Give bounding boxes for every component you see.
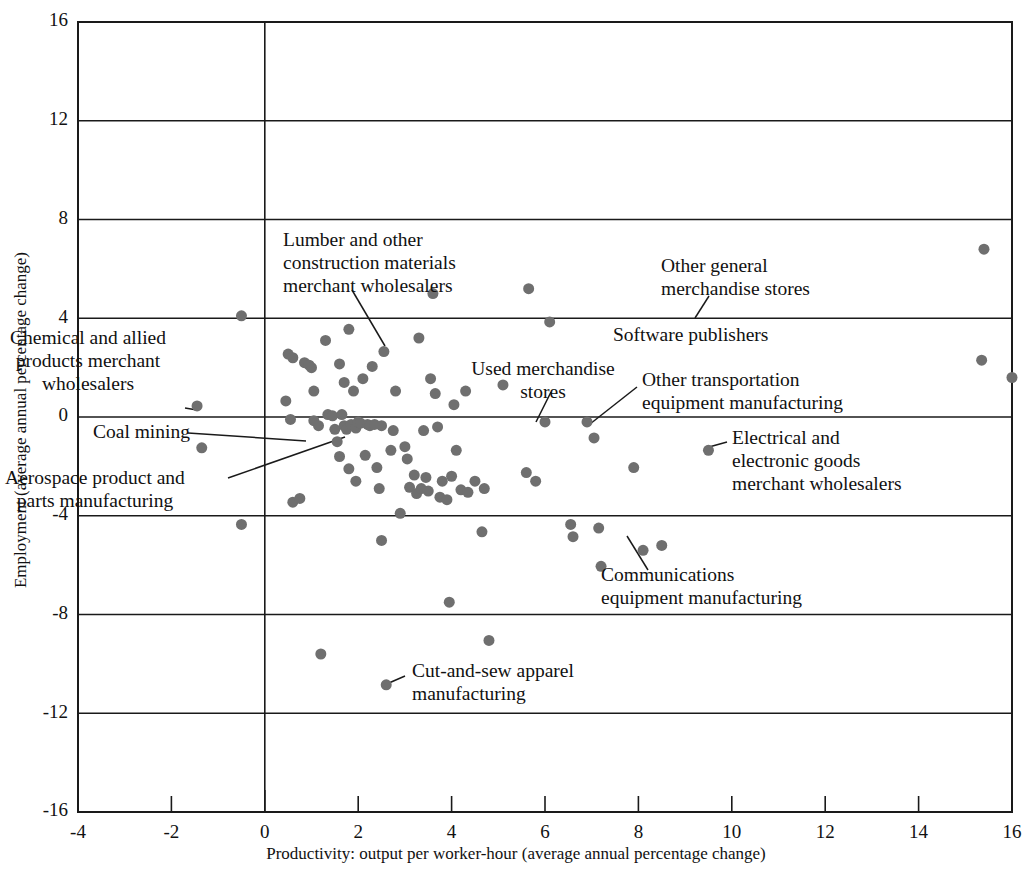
data-point	[399, 441, 410, 452]
data-point	[703, 445, 714, 456]
y-tick-label-8: 8	[59, 207, 69, 228]
annotation-line: stores	[520, 381, 566, 402]
annotation-communications-equipment: Communicationsequipment manufacturing	[601, 564, 802, 608]
data-point	[568, 531, 579, 542]
annotation-label-group: Chemical and alliedproducts merchantwhol…	[5, 229, 901, 704]
data-point	[530, 476, 541, 487]
annotation-line: Chemical and allied	[10, 327, 166, 348]
x-tick-label-4: 4	[447, 821, 457, 842]
data-point	[420, 472, 431, 483]
annotation-line: products merchant	[16, 350, 161, 371]
data-point	[582, 416, 593, 427]
x-tick-label-6: 6	[540, 821, 550, 842]
data-point	[336, 409, 347, 420]
annotation-cut-and-sew-apparel: Cut-and-sew apparelmanufacturing	[412, 660, 574, 704]
data-point	[460, 386, 471, 397]
data-point	[348, 386, 359, 397]
data-point	[371, 462, 382, 473]
annotation-aerospace-product-parts: Aerospace product andparts manufacturing	[5, 467, 185, 511]
annotation-electrical-electronic-goods: Electrical andelectronic goodsmerchant w…	[732, 427, 901, 494]
data-point-group	[192, 244, 1018, 691]
scatter-chart-figure: -4-20246810121416 -16-12-8-40481216 Chem…	[0, 0, 1033, 872]
data-point	[425, 373, 436, 384]
annotation-line: Software publishers	[613, 324, 768, 345]
chart-canvas: -4-20246810121416 -16-12-8-40481216 Chem…	[0, 0, 1033, 872]
data-point	[334, 358, 345, 369]
annotation-line: construction materials	[283, 252, 456, 273]
data-point	[628, 462, 639, 473]
annotation-line: equipment manufacturing	[642, 392, 843, 413]
data-point	[479, 483, 490, 494]
data-point	[483, 635, 494, 646]
data-point	[437, 476, 448, 487]
x-tick-label--4: -4	[70, 821, 86, 842]
data-point	[327, 410, 338, 421]
data-point	[418, 425, 429, 436]
data-point	[593, 523, 604, 534]
data-point	[385, 445, 396, 456]
annotation-line: Lumber and other	[283, 229, 423, 250]
data-point	[476, 526, 487, 537]
x-tick-label-16: 16	[1003, 821, 1022, 842]
annotation-line: manufacturing	[412, 683, 526, 704]
leader-line-coal-mining	[188, 433, 306, 441]
data-point	[306, 362, 317, 373]
data-point	[285, 414, 296, 425]
y-axis-title: Employment (average annual percentage ch…	[11, 252, 30, 588]
x-tick-label-12: 12	[816, 821, 835, 842]
data-point	[656, 540, 667, 551]
data-point	[350, 476, 361, 487]
data-point	[367, 361, 378, 372]
x-tick-label-0: 0	[260, 821, 270, 842]
data-point	[287, 352, 298, 363]
data-point	[339, 377, 350, 388]
leader-line-aerospace-product-parts	[228, 437, 345, 478]
y-axis-tick-labels: -16-12-8-40481216	[43, 9, 69, 820]
annotation-line: equipment manufacturing	[601, 587, 802, 608]
data-point	[409, 470, 420, 481]
y-tick-label--12: -12	[43, 701, 68, 722]
data-point	[236, 310, 247, 321]
leader-line-other-transportation-equipment	[590, 387, 637, 424]
x-tick-label--2: -2	[163, 821, 179, 842]
data-point	[423, 486, 434, 497]
data-point	[374, 483, 385, 494]
annotation-line: Used merchandise	[471, 358, 615, 379]
data-point	[390, 386, 401, 397]
y-tick-label-4: 4	[59, 306, 69, 327]
annotation-line: Electrical and	[732, 427, 840, 448]
data-point	[544, 316, 555, 327]
annotation-line: parts manufacturing	[17, 490, 174, 511]
data-point	[441, 494, 452, 505]
data-point	[343, 463, 354, 474]
annotation-line: Coal mining	[93, 421, 190, 442]
data-point	[638, 545, 649, 556]
data-point	[381, 679, 392, 690]
data-point	[376, 535, 387, 546]
x-tick-label-14: 14	[909, 821, 929, 842]
data-point	[315, 649, 326, 660]
y-tick-label--8: -8	[52, 602, 68, 623]
data-point	[343, 324, 354, 335]
data-point	[320, 335, 331, 346]
data-point	[313, 420, 324, 431]
annotation-line: wholesalers	[42, 373, 134, 394]
data-point	[402, 453, 413, 464]
data-point	[376, 420, 387, 431]
data-point	[294, 493, 305, 504]
data-point	[523, 283, 534, 294]
annotation-other-transportation-equipment: Other transportationequipment manufactur…	[642, 369, 843, 413]
data-point	[497, 379, 508, 390]
data-point	[388, 425, 399, 436]
data-point	[462, 487, 473, 498]
annotation-line: Other transportation	[642, 369, 800, 390]
x-tick-label-8: 8	[634, 821, 644, 842]
annotation-line: Aerospace product and	[5, 467, 185, 488]
data-point	[451, 445, 462, 456]
data-point	[280, 395, 291, 406]
x-tick-label-10: 10	[722, 821, 741, 842]
annotation-coal-mining: Coal mining	[93, 421, 190, 442]
annotation-used-merchandise-stores: Used merchandisestores	[471, 358, 615, 402]
data-point	[565, 519, 576, 530]
annotation-lumber-construction-materials: Lumber and otherconstruction materialsme…	[283, 229, 456, 296]
